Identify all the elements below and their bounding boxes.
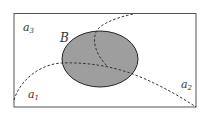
label-b: B: [59, 31, 69, 45]
set-b-ellipse: [62, 31, 138, 87]
venn-diagram: a3 B a1 a2: [0, 0, 207, 118]
label-a3: a3: [23, 21, 35, 35]
label-a2: a2: [181, 78, 193, 92]
label-a1: a1: [28, 88, 39, 102]
